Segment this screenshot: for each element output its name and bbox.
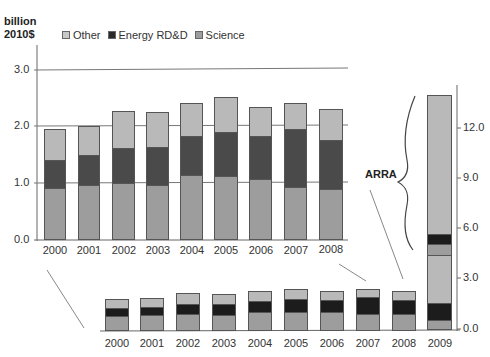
bar-bottom-2004	[248, 291, 272, 331]
segment-science	[176, 314, 200, 331]
x-tick-bottom-2004: 2004	[243, 337, 277, 349]
segment-arra-other	[427, 95, 452, 235]
arra-annotation: ARRA	[365, 168, 397, 180]
segment-science	[212, 315, 236, 331]
bar-bottom-2007	[356, 289, 380, 331]
segment-other	[284, 103, 307, 130]
x-tick-bottom-2009: 2009	[423, 337, 457, 349]
segment-other	[78, 126, 100, 156]
x-tick-top-2008: 2008	[314, 243, 348, 255]
x-tick-bottom-2008: 2008	[387, 337, 421, 349]
segment-science	[44, 188, 66, 240]
x-tick-bottom-2000: 2000	[100, 337, 134, 349]
segment-energy	[180, 136, 203, 176]
x-tick-top-2005: 2005	[209, 244, 243, 256]
segment-science	[214, 176, 238, 240]
x-tick-top-2007: 2007	[279, 244, 313, 256]
segment-science	[112, 183, 135, 240]
segment-other	[112, 111, 135, 149]
bar-top-2008	[319, 109, 343, 240]
segment-science	[180, 175, 203, 240]
right-y-tick-0: 0.0	[463, 322, 478, 334]
segment-science	[427, 320, 452, 330]
segment-energy	[146, 147, 169, 186]
bar-bottom-2005	[284, 289, 308, 331]
x-tick-top-2006: 2006	[244, 244, 278, 256]
bar-top-2001	[78, 126, 100, 240]
x-tick-top-2002: 2002	[107, 244, 141, 256]
bar-top-2002	[112, 111, 135, 240]
segment-science	[105, 316, 129, 331]
segment-other	[319, 109, 343, 141]
bar-top-2006	[249, 107, 272, 240]
x-tick-top-2000: 2000	[38, 244, 72, 256]
right-y-tick-9: 9.0	[463, 171, 478, 183]
segment-energy	[78, 155, 100, 186]
x-tick-bottom-2006: 2006	[315, 337, 349, 349]
x-tick-bottom-2007: 2007	[351, 337, 385, 349]
bar-bottom-2008	[392, 291, 416, 331]
bar-bottom-2009	[427, 95, 452, 330]
segment-science	[146, 185, 169, 240]
bar-bottom-2000	[105, 299, 129, 331]
x-tick-top-2003: 2003	[141, 244, 175, 256]
bar-top-2007	[284, 103, 307, 240]
segment-other	[180, 103, 203, 137]
segment-energy	[214, 132, 238, 177]
x-tick-top-2004: 2004	[175, 244, 209, 256]
segment-energy	[427, 303, 452, 321]
chart-axes	[0, 0, 490, 357]
right-y-tick-6: 6.0	[463, 221, 478, 233]
bar-top-2003	[146, 112, 169, 240]
bar-top-2005	[214, 97, 238, 240]
right-y-tick-12: 12.0	[463, 121, 484, 133]
bar-bottom-2006	[320, 291, 344, 331]
segment-science	[356, 314, 380, 331]
segment-other	[249, 107, 272, 137]
segment-energy	[356, 297, 380, 315]
x-tick-bottom-2001: 2001	[135, 337, 169, 349]
segment-energy	[249, 136, 272, 180]
bar-bottom-2001	[140, 298, 164, 331]
x-tick-bottom-2003: 2003	[207, 337, 241, 349]
bar-bottom-2002	[176, 293, 200, 331]
segment-science	[284, 312, 308, 331]
segment-energy	[44, 160, 66, 189]
segment-energy	[319, 140, 343, 190]
segment-energy	[392, 300, 416, 315]
bar-top-2004	[180, 103, 203, 240]
segment-science	[249, 179, 272, 240]
segment-other	[214, 97, 238, 133]
segment-science	[392, 314, 416, 331]
segment-science	[140, 315, 164, 331]
segment-science	[78, 185, 100, 240]
segment-science	[248, 312, 272, 331]
segment-other	[427, 255, 452, 304]
segment-science	[320, 312, 344, 331]
x-tick-bottom-2002: 2002	[171, 337, 205, 349]
bar-top-2000	[44, 129, 66, 240]
bar-bottom-2003	[212, 294, 236, 331]
segment-other	[146, 112, 169, 148]
x-tick-top-2001: 2001	[72, 244, 106, 256]
x-tick-bottom-2005: 2005	[279, 337, 313, 349]
right-y-tick-3: 3.0	[463, 271, 478, 283]
segment-other	[44, 129, 66, 161]
segment-science	[319, 189, 343, 240]
segment-energy	[284, 129, 307, 188]
segment-energy	[112, 148, 135, 184]
segment-science	[284, 187, 307, 240]
segment-energy	[284, 299, 308, 313]
